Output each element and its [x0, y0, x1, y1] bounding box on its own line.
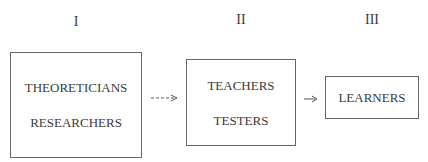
box-line: RESEARCHERS: [30, 116, 122, 129]
box-teachers-testers: TEACHERS TESTERS: [186, 59, 296, 146]
box-line: THEORETICIANS: [25, 81, 128, 94]
solid-arrow-icon: [303, 93, 319, 105]
box-line: TEACHERS: [207, 79, 274, 92]
dashed-arrow-icon: [150, 92, 180, 104]
stage-label-iii: III: [365, 12, 379, 28]
box-theoreticians-researchers: THEORETICIANS RESEARCHERS: [10, 52, 142, 158]
stage-label-i: I: [74, 14, 79, 30]
solid-arrow: [303, 93, 319, 109]
stage-label-ii: II: [236, 12, 245, 28]
dashed-arrow: [150, 92, 180, 108]
box-learners: LEARNERS: [325, 76, 419, 119]
box-line: LEARNERS: [338, 91, 405, 104]
box-line: TESTERS: [214, 114, 269, 127]
